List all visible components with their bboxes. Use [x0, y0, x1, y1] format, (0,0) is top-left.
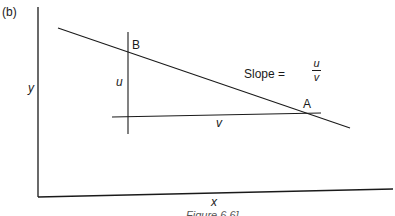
slope-prefix: Slope =: [244, 68, 285, 80]
figure-caption: Figure 6.6]: [186, 209, 239, 216]
slope-numerator: u: [313, 58, 319, 69]
slope-denominator: v: [314, 72, 320, 83]
point-b-label: B: [132, 39, 140, 51]
panel-label: (b): [2, 6, 17, 18]
diagram-canvas: [0, 0, 395, 216]
rise-label-u: u: [116, 76, 123, 88]
point-a-label: A: [303, 98, 311, 110]
slope-fraction: u v: [312, 58, 321, 83]
run-label-v: v: [216, 117, 222, 129]
x-axis-label: x: [211, 196, 217, 208]
y-axis-label: y: [28, 82, 34, 94]
